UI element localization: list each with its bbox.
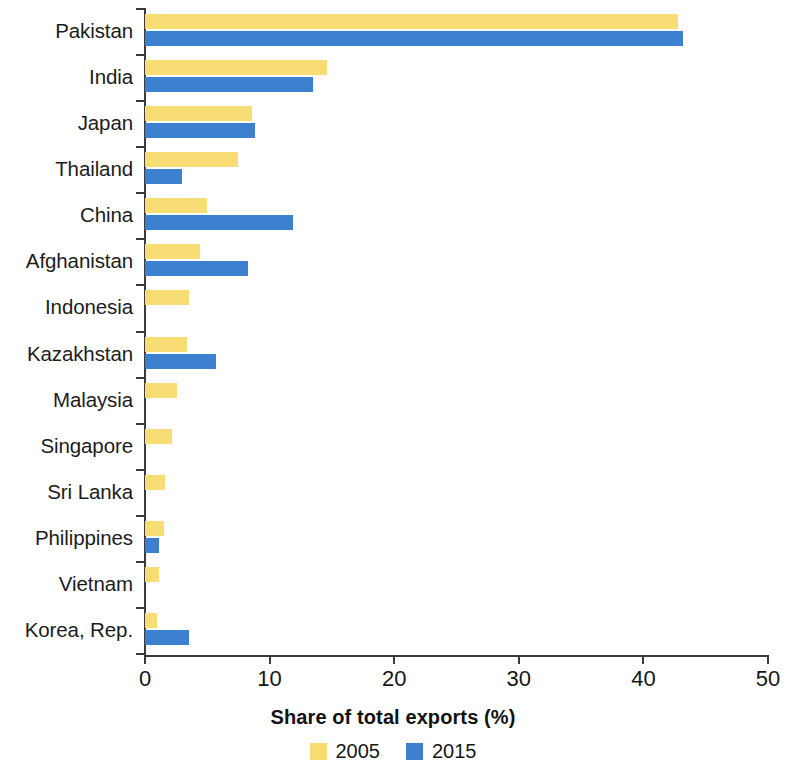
bar-2005: [145, 383, 177, 398]
x-axis-tick-label: 0: [139, 668, 151, 690]
category-label: China: [80, 205, 133, 226]
category-label: Japan: [78, 113, 133, 134]
y-axis-tick: [136, 607, 145, 609]
x-axis-tick: [518, 655, 520, 664]
x-axis-tick-label: 30: [507, 668, 531, 690]
category-row: Pakistan: [145, 8, 768, 54]
bar-chart: PakistanIndiaJapanThailandChinaAfghanist…: [0, 0, 786, 770]
category-row: Korea, Rep.: [145, 607, 768, 653]
x-axis-tick-label: 10: [257, 668, 281, 690]
y-axis-tick: [136, 284, 145, 286]
bar-2015: [145, 215, 293, 230]
y-axis-tick: [136, 423, 145, 425]
y-axis-tick: [136, 238, 145, 240]
x-axis-title: Share of total exports (%): [0, 706, 786, 729]
y-axis-tick: [136, 54, 145, 56]
category-label: Philippines: [35, 528, 133, 549]
bar-2015: [145, 354, 216, 369]
category-row: Malaysia: [145, 377, 768, 423]
bar-2005: [145, 290, 189, 305]
bar-2005: [145, 14, 678, 29]
category-label: Korea, Rep.: [25, 620, 133, 641]
bar-2005: [145, 567, 159, 582]
bar-2015: [145, 77, 313, 92]
legend-item[interactable]: 2015: [406, 741, 477, 761]
chart-legend: 20052015: [0, 741, 786, 761]
y-axis-tick: [136, 8, 145, 10]
x-axis-tick: [144, 655, 146, 664]
bar-2005: [145, 613, 157, 628]
y-axis-tick: [136, 469, 145, 471]
bar-2005: [145, 198, 207, 213]
category-row: Vietnam: [145, 561, 768, 607]
category-label: Indonesia: [45, 297, 133, 318]
category-row: Indonesia: [145, 284, 768, 330]
category-row: Afghanistan: [145, 238, 768, 284]
category-label: Vietnam: [59, 574, 133, 595]
bar-2005: [145, 337, 187, 352]
legend-label: 2005: [336, 741, 381, 761]
y-axis-tick: [136, 561, 145, 563]
y-axis-tick: [136, 377, 145, 379]
bar-2005: [145, 152, 238, 167]
plot-area: PakistanIndiaJapanThailandChinaAfghanist…: [145, 8, 768, 653]
legend-label: 2015: [432, 741, 477, 761]
category-label: Kazakhstan: [27, 344, 133, 365]
category-row: Thailand: [145, 146, 768, 192]
category-row: Singapore: [145, 423, 768, 469]
category-label: Pakistan: [55, 21, 133, 42]
category-label: Thailand: [55, 159, 133, 180]
bar-2005: [145, 60, 327, 75]
bar-2005: [145, 521, 164, 536]
y-axis-tick: [136, 100, 145, 102]
y-axis-tick: [136, 146, 145, 148]
y-axis-tick: [136, 515, 145, 517]
bar-2015: [145, 630, 189, 645]
x-axis-line: [144, 655, 769, 657]
bar-2015: [145, 31, 683, 46]
bar-2015: [145, 169, 182, 184]
y-axis-tick: [136, 331, 145, 333]
y-axis-tick: [136, 192, 145, 194]
x-axis-tick-label: 50: [756, 668, 780, 690]
legend-swatch-icon: [310, 743, 327, 760]
bar-2005: [145, 244, 200, 259]
category-row: Japan: [145, 100, 768, 146]
bar-2015: [145, 123, 255, 138]
category-label: India: [89, 67, 133, 88]
x-axis-tick-label: 20: [382, 668, 406, 690]
category-label: Sri Lanka: [47, 482, 133, 503]
category-row: Sri Lanka: [145, 469, 768, 515]
category-label: Afghanistan: [26, 251, 133, 272]
bar-2015: [145, 538, 159, 553]
legend-swatch-icon: [406, 743, 423, 760]
x-axis-tick: [767, 655, 769, 664]
category-row: China: [145, 192, 768, 238]
category-row: Kazakhstan: [145, 331, 768, 377]
bar-2015: [145, 261, 248, 276]
category-label: Singapore: [40, 436, 133, 457]
x-axis-tick: [393, 655, 395, 664]
category-row: India: [145, 54, 768, 100]
bar-2005: [145, 475, 165, 490]
x-axis-tick: [642, 655, 644, 664]
x-axis-tick-label: 40: [631, 668, 655, 690]
x-axis-tick: [269, 655, 271, 664]
legend-item[interactable]: 2005: [310, 741, 381, 761]
bar-2005: [145, 106, 252, 121]
category-row: Philippines: [145, 515, 768, 561]
category-label: Malaysia: [53, 390, 133, 411]
bar-2005: [145, 429, 172, 444]
